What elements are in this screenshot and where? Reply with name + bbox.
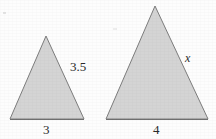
small-triangle-side-label: 3.5 <box>70 60 86 73</box>
small-triangle-base-label: 3 <box>43 123 50 136</box>
small-triangle <box>10 36 84 119</box>
large-triangle <box>106 6 208 119</box>
large-triangle-base-label: 4 <box>153 123 160 136</box>
similar-triangles-figure: 3.5 3 x 4 <box>0 0 216 139</box>
large-triangle-side-label: x <box>185 52 190 64</box>
triangles-canvas <box>0 0 216 139</box>
